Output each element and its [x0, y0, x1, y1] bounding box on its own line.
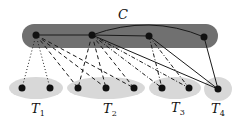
- t2-node-a: [75, 85, 82, 92]
- group-label-t2: T2: [103, 101, 117, 118]
- t1-node-b: [47, 85, 54, 92]
- t3-node-a: [159, 85, 166, 92]
- t3-node-b: [186, 85, 193, 92]
- t4-node: [215, 86, 222, 93]
- t2-node-b: [103, 85, 110, 92]
- group-region-t3: [149, 77, 201, 99]
- group-label-t3: T3: [171, 100, 185, 117]
- graph-diagram: C: [0, 0, 243, 123]
- group-region-t1: [9, 77, 63, 99]
- clique-label: C: [118, 7, 128, 22]
- group-label-t4: T4: [211, 101, 225, 118]
- t1-node-a: [19, 85, 26, 92]
- t2-node-c: [131, 85, 138, 92]
- clique-node-c1: [33, 32, 40, 39]
- group-label-t1: T1: [31, 101, 45, 118]
- clique-node-c2: [89, 32, 96, 39]
- clique-node-c4: [201, 34, 208, 41]
- clique-node-c3: [146, 33, 153, 40]
